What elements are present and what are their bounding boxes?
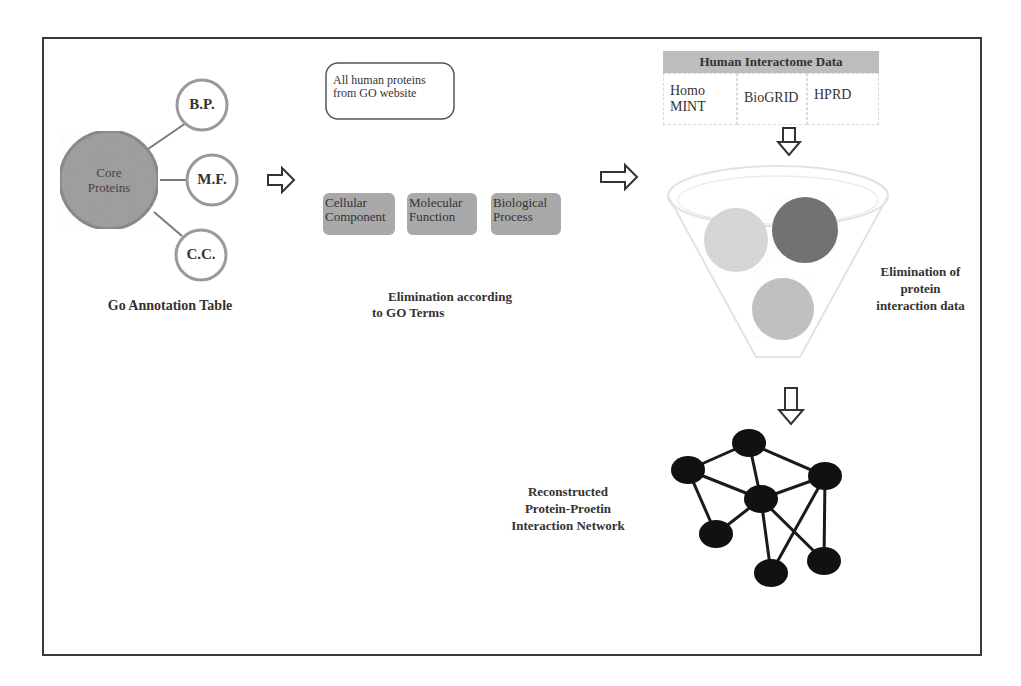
caption-line: to GO Terms: [360, 305, 540, 321]
arrow-down-icon: [778, 128, 800, 155]
caption-line: interaction data: [858, 297, 983, 314]
caption-line: protein: [858, 280, 983, 297]
interactome-sources: Homo MINT BioGRID HPRD: [663, 73, 879, 125]
caption-line: Elimination according: [360, 289, 540, 305]
arrow-right-icon: [601, 165, 637, 189]
arrow-right-icon: [268, 168, 294, 192]
funnel-caption: Elimination of protein interaction data: [858, 263, 983, 314]
go-term-molecular-function: Molecular Function: [407, 193, 477, 235]
bp-label: B.P.: [177, 96, 227, 113]
ppi-network: [671, 429, 842, 587]
network-node-bottom-left: [699, 520, 733, 548]
source-hprd: HPRD: [807, 73, 879, 125]
network-node-bottom-right: [807, 547, 841, 575]
network-node-left: [671, 456, 705, 484]
source-homo-mint: Homo MINT: [663, 73, 737, 125]
caption-line: Reconstructed: [494, 483, 642, 500]
go-terms-caption: Elimination according to GO Terms: [360, 289, 540, 321]
mf-label: M.F.: [187, 171, 237, 188]
caption-line: Protein-Proetin: [494, 500, 642, 517]
interactome-title: Human Interactome Data: [663, 51, 879, 73]
network-node-bottom-center: [754, 559, 788, 587]
network-node-right: [808, 462, 842, 490]
go-annotation-caption: Go Annotation Table: [70, 298, 270, 314]
interactome-table: Human Interactome Data Homo MINT BioGRID…: [663, 51, 879, 125]
go-term-cellular-component: Cellular Component: [323, 193, 395, 235]
caption-line: Interaction Network: [494, 517, 642, 534]
caption-line: Elimination of: [858, 263, 983, 280]
arrow-down-icon: [779, 388, 803, 424]
network-node-center: [744, 485, 778, 513]
source-biogrid: BioGRID: [737, 73, 807, 125]
source-box-text: All human proteins from GO website: [333, 74, 443, 100]
cc-label: C.C.: [176, 246, 226, 263]
funnel-icon: [668, 166, 888, 357]
core-proteins-label: Core Proteins: [75, 165, 143, 195]
go-term-biological-process: Biological Process: [491, 193, 561, 235]
network-node-top: [732, 429, 766, 457]
network-caption: Reconstructed Protein-Proetin Interactio…: [494, 483, 642, 534]
